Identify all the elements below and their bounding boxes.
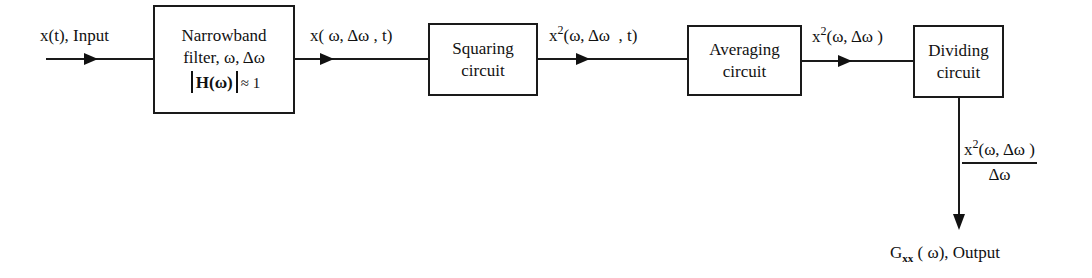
input-line <box>46 58 153 60</box>
numerator-base: x <box>964 140 973 159</box>
block-label-line1: Narrowband <box>182 25 267 47</box>
averaging-to-dividing-line <box>802 60 913 62</box>
fraction-denominator: Δω <box>962 164 1037 186</box>
block-label-line2: circuit <box>937 62 980 84</box>
output-text: ( ω), Output <box>913 243 1000 262</box>
block-label-line3: H(ω)≈ 1 <box>188 71 260 94</box>
arrow-right-icon <box>320 53 334 65</box>
dividing-circuit-block: Dividing circuit <box>913 25 1004 98</box>
averaging-output-label: x2(ω, Δω ) <box>812 27 883 47</box>
filter-output-label: x( ω, Δω , t) <box>310 26 392 46</box>
output-line <box>958 98 960 218</box>
transfer-function: H(ω) <box>196 73 233 92</box>
signal-base: x <box>812 27 821 46</box>
abs-bar-right <box>236 71 238 93</box>
filter-to-squaring-line <box>295 58 428 60</box>
output-subscript: xx <box>902 252 913 264</box>
arrow-right-icon <box>84 53 98 65</box>
signal-base: x <box>549 26 558 45</box>
arrow-right-icon <box>576 53 590 65</box>
arrow-down-icon <box>953 214 965 230</box>
signal-args: (ω, Δω ) <box>827 27 883 46</box>
output-label: Gxx ( ω), Output <box>890 243 1000 263</box>
squaring-to-averaging-line <box>538 58 687 60</box>
input-label: x(t), Input <box>40 26 109 46</box>
arrow-right-icon <box>838 55 852 67</box>
output-symbol: G <box>890 243 902 262</box>
averaging-circuit-block: Averaging circuit <box>687 25 802 96</box>
signal-args: (ω, Δω , t) <box>564 26 638 45</box>
block-label-line2: circuit <box>723 61 766 83</box>
fraction-numerator: x2(ω, Δω ) <box>962 140 1037 164</box>
block-label-line2: circuit <box>461 60 504 82</box>
narrowband-filter-block: Narrowband filter, ω, Δω H(ω)≈ 1 <box>153 5 295 114</box>
approx-one: ≈ 1 <box>241 75 260 91</box>
squaring-circuit-block: Squaring circuit <box>428 23 538 96</box>
squaring-output-label: x2(ω, Δω , t) <box>549 26 637 46</box>
abs-bar-left <box>191 71 193 93</box>
block-label-line1: Squaring <box>452 38 513 60</box>
block-label-line1: Dividing <box>928 40 988 62</box>
numerator-args: (ω, Δω ) <box>979 140 1035 159</box>
fraction-label: x2(ω, Δω ) Δω <box>962 140 1037 186</box>
block-label-line1: Averaging <box>709 39 780 61</box>
block-label-line2: filter, ω, Δω <box>183 47 265 69</box>
